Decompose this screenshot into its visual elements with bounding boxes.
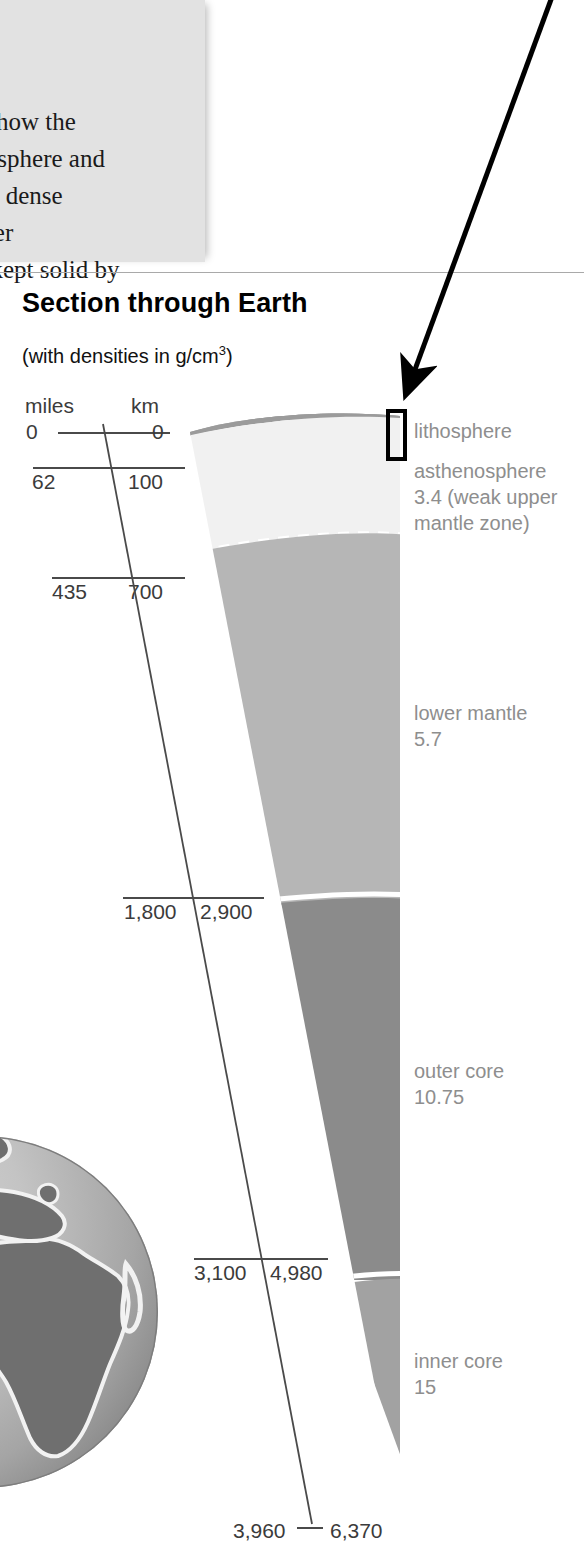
layer-band-lower-mantle <box>160 533 422 905</box>
globe-illustration <box>0 1125 158 1488</box>
layer-band-outer-core <box>250 898 424 1280</box>
label-asthenosphere: asthenosphere 3.4 (weak upper mantle zon… <box>414 458 557 536</box>
label-lithosphere: lithosphere <box>414 418 512 444</box>
label-outer-core: outer core 10.75 <box>414 1058 504 1110</box>
lithosphere-pointer-arrow <box>406 0 556 394</box>
label-lower-mantle: lower mantle 5.7 <box>414 700 527 752</box>
globe-landmass-island <box>38 1184 58 1203</box>
figure-page: Introduction A slice cut through Earth f… <box>0 0 584 1558</box>
earth-section-wedge <box>160 398 424 1520</box>
label-inner-core: inner core 15 <box>414 1348 503 1400</box>
lithosphere-callout-box <box>386 409 407 461</box>
layer-band-inner-core <box>338 1279 424 1520</box>
figure-artwork <box>0 0 584 1558</box>
